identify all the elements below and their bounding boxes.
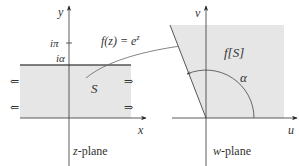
z-plane: y x iπ iα S ⇐ ⇐ ⇒ ⇒ z-plane — [10, 5, 146, 166]
tick-label-ipi: iπ — [50, 37, 59, 49]
x-axis-label: x — [137, 123, 144, 137]
strip-region-s — [20, 65, 131, 118]
right-arrow-top-icon: ⇒ — [124, 75, 133, 87]
left-arrow-top-icon: ⇐ — [10, 75, 19, 87]
right-arrow-bottom-icon: ⇒ — [124, 101, 133, 113]
z-plane-label: z-plane — [72, 144, 108, 158]
wedge-region-fs — [170, 25, 284, 118]
conformal-map-diagram: y x iπ iα S ⇐ ⇐ ⇒ ⇒ z-plane f(z) = ez v … — [0, 0, 299, 166]
v-axis-label: v — [195, 6, 201, 20]
y-axis-label: y — [57, 5, 64, 19]
mapping-label: f(z) = ez — [101, 33, 140, 48]
tick-label-ialpha: iα — [56, 52, 65, 64]
region-label-s: S — [91, 81, 98, 96]
w-plane-label: w-plane — [213, 144, 251, 158]
angle-label-alpha: α — [240, 70, 248, 85]
w-plane: v u f[S] α w-plane — [170, 6, 297, 166]
u-axis-label: u — [288, 123, 294, 137]
left-arrow-bottom-icon: ⇐ — [10, 101, 19, 113]
region-label-fs: f[S] — [224, 45, 244, 60]
